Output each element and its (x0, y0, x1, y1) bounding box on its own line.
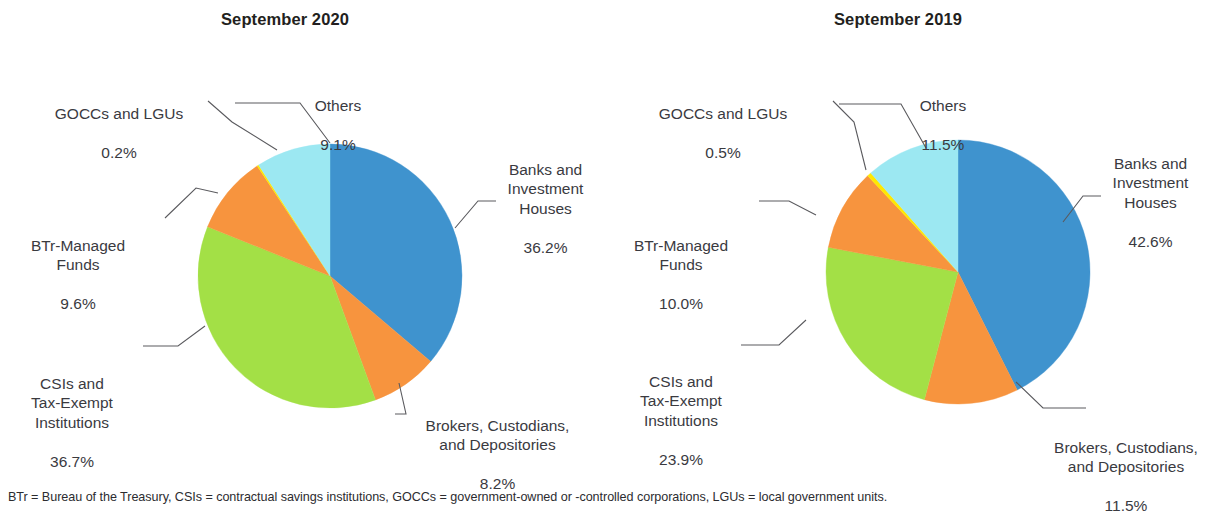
callout-brokers-2020-name: Brokers, Custodians, and Depositories (426, 417, 570, 454)
callout-brokers-2020: Brokers, Custodians, and Depositories 8.… (400, 396, 595, 494)
callout-csis-2019-name: CSIs and Tax-Exempt Institutions (640, 373, 722, 429)
callout-goccs-2019: GOCCs and LGUs 0.5% (617, 84, 829, 162)
callout-others-2019-value: 11.5% (922, 136, 965, 153)
callout-btr-2020-value: 9.6% (60, 295, 95, 312)
callout-others-2020-name: Others (315, 97, 362, 114)
callout-others-2019-name: Others (920, 97, 967, 114)
callout-csis-2020-value: 36.7% (50, 453, 94, 470)
callout-banks-2019: Banks and Investment Houses 42.6% (1083, 134, 1218, 251)
callout-csis-2020-name: CSIs and Tax-Exempt Institutions (31, 375, 113, 431)
callout-banks-2020-name: Banks and Investment Houses (508, 161, 584, 217)
leader-csis-2020 (143, 326, 205, 346)
callout-others-2020-value: 9.1% (320, 136, 355, 153)
callout-others-2020: Others 9.1% (268, 76, 408, 154)
leader-csis-2019 (741, 320, 806, 345)
pie-slices-2020 (198, 144, 462, 408)
callout-goccs-2019-name: GOCCs and LGUs (659, 105, 787, 122)
callout-banks-2020: Banks and Investment Houses 36.2% (478, 140, 613, 257)
leader-brokers-2019 (1016, 382, 1086, 408)
callout-banks-2019-value: 42.6% (1129, 233, 1173, 250)
pie-chart-figure: September 2020 GOCCs and LGUs 0.2% Other… (0, 0, 1221, 513)
chart-panel-2019: September 2019 GOCCs and LGUs 0.5% Other… (611, 0, 1221, 475)
callout-btr-2020: BTr-Managed Funds 9.6% (8, 216, 148, 314)
leader-btr-2020 (165, 188, 218, 218)
chart-panel-2020: September 2020 GOCCs and LGUs 0.2% Other… (0, 0, 610, 475)
callout-csis-2020: CSIs and Tax-Exempt Institutions 36.7% (2, 354, 142, 471)
callout-goccs-2020-name: GOCCs and LGUs (55, 105, 183, 122)
callout-btr-2019: BTr-Managed Funds 10.0% (611, 216, 751, 314)
pie-slices-2019 (826, 140, 1090, 404)
callout-btr-2019-value: 10.0% (659, 295, 703, 312)
callout-btr-2019-name: BTr-Managed Funds (634, 237, 728, 274)
callout-others-2019: Others 11.5% (873, 76, 1013, 154)
callout-goccs-2019-value: 0.5% (705, 144, 740, 161)
footnote: BTr = Bureau of the Treasury, CSIs = con… (8, 489, 1213, 505)
callout-goccs-2020: GOCCs and LGUs 0.2% (16, 84, 222, 162)
callout-brokers-2019-name: Brokers, Custodians, and Depositories (1054, 439, 1198, 476)
callout-csis-2019-value: 23.9% (659, 451, 703, 468)
callout-banks-2020-value: 36.2% (524, 239, 568, 256)
callout-banks-2019-name: Banks and Investment Houses (1113, 155, 1189, 211)
callout-goccs-2020-value: 0.2% (101, 144, 136, 161)
callout-csis-2019: CSIs and Tax-Exempt Institutions 23.9% (611, 352, 751, 469)
leader-goccs-2019 (833, 101, 866, 170)
leader-btr-2019 (759, 201, 816, 215)
callout-btr-2020-name: BTr-Managed Funds (31, 237, 125, 274)
